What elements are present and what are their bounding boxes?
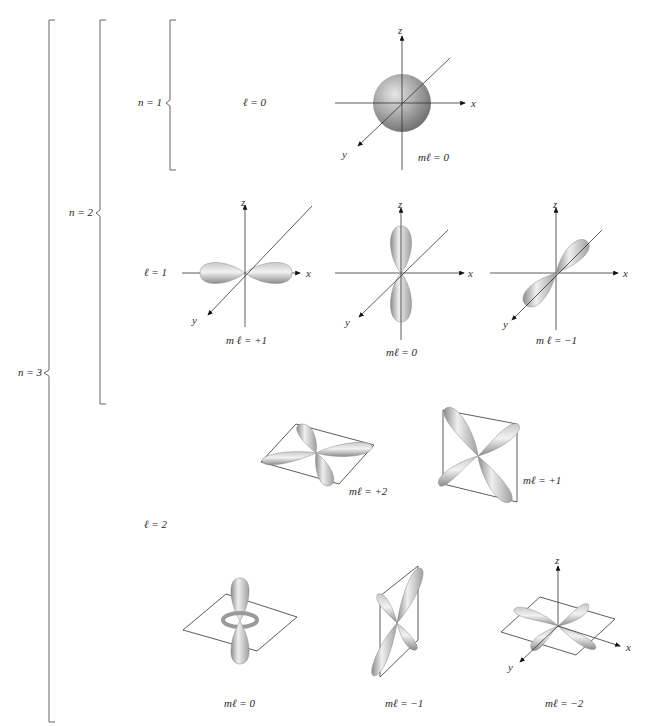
svg-text:z: z: [397, 24, 403, 36]
svg-text:x: x: [622, 267, 628, 279]
orbital-d-plus2: [261, 424, 374, 486]
ml-label-p-minus1: m ℓ = −1: [536, 334, 577, 346]
orbital-d-minus2: z x y: [501, 554, 631, 673]
orbital-p-plus1: z x y: [182, 196, 312, 327]
svg-text:z: z: [554, 554, 560, 566]
orbital-d-minus1: [372, 566, 423, 677]
orbital-p-minus1: z x y: [490, 198, 628, 330]
svg-text:z: z: [397, 198, 403, 210]
ml-label-s: mℓ = 0: [418, 151, 449, 163]
label-n1: n = 1: [138, 96, 162, 108]
bracket-n2: [96, 20, 106, 404]
ml-label-p-0: mℓ = 0: [386, 346, 417, 358]
svg-text:x: x: [305, 267, 311, 279]
label-l0: ℓ = 0: [243, 96, 266, 108]
svg-text:y: y: [507, 661, 513, 673]
bracket-n1: [166, 20, 176, 170]
svg-text:x: x: [467, 267, 473, 279]
ml-label-d-minus1: mℓ = −1: [385, 697, 423, 709]
bracket-n3: [44, 20, 55, 722]
ml-label-d-plus1: mℓ = +1: [523, 474, 561, 486]
svg-text:z: z: [552, 198, 558, 210]
ml-label-d-plus2: mℓ = +2: [349, 485, 387, 497]
svg-text:y: y: [502, 318, 508, 330]
ml-label-d-minus2: mℓ = −2: [545, 697, 583, 709]
svg-text:y: y: [341, 148, 347, 160]
label-n3: n = 3: [18, 366, 42, 378]
orbital-p-0: z x y: [335, 198, 473, 340]
svg-text:z: z: [240, 196, 246, 208]
orbital-d-0: [183, 578, 297, 664]
svg-text:y: y: [191, 314, 197, 326]
orbital-d-plus1: [438, 407, 519, 502]
orbital-s: z x y: [335, 24, 476, 170]
svg-text:x: x: [470, 97, 476, 109]
label-l2: ℓ = 2: [144, 518, 167, 530]
label-l1: ℓ = 1: [144, 266, 167, 278]
label-n2: n = 2: [69, 206, 93, 218]
svg-text:x: x: [625, 641, 631, 653]
ml-label-p-plus1: m ℓ = +1: [226, 334, 267, 346]
orbital-figure: z x y z x y z x y z x y: [0, 0, 647, 726]
svg-text:y: y: [344, 316, 350, 328]
ml-label-d-0: mℓ = 0: [224, 697, 255, 709]
